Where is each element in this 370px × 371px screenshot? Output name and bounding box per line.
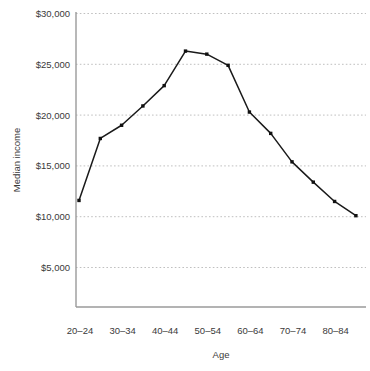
y-axis-tick-label: $30,000 xyxy=(36,8,70,19)
y-axis-tick-label: $10,000 xyxy=(36,211,70,222)
y-axis-tick-labels-group: $5,000$10,000$15,000$20,000$25,000$30,00… xyxy=(36,8,70,273)
x-axis-tick-label: 60–64 xyxy=(237,325,263,336)
y-axis-tick-label: $5,000 xyxy=(41,262,70,273)
y-axis-title: Median income xyxy=(11,128,22,192)
x-axis-tick-label: 80–84 xyxy=(322,325,348,336)
data-point-markers-group xyxy=(77,49,357,217)
x-axis-title: Age xyxy=(213,349,230,360)
median-income-by-age-line-chart: $5,000$10,000$15,000$20,000$25,000$30,00… xyxy=(0,0,370,371)
data-point-marker xyxy=(99,137,102,140)
data-point-marker xyxy=(77,199,80,202)
data-point-marker xyxy=(312,180,315,183)
x-axis-tick-label: 70–74 xyxy=(280,325,306,336)
x-axis-tick-labels-group: 20–2430–3440–4450–5460–6470–7480–84 xyxy=(67,325,349,336)
x-axis-tick-label: 50–54 xyxy=(195,325,221,336)
x-axis-tick-label: 30–34 xyxy=(109,325,135,336)
data-point-marker xyxy=(333,200,336,203)
median-income-series-line xyxy=(79,51,356,216)
data-point-marker xyxy=(120,124,123,127)
y-axis-tick-label: $25,000 xyxy=(36,59,70,70)
data-point-marker xyxy=(269,132,272,135)
x-axis-tick-label: 20–24 xyxy=(67,325,93,336)
data-point-marker xyxy=(205,52,208,55)
gridlines-group xyxy=(76,14,366,268)
data-point-marker xyxy=(226,64,229,67)
y-axis-tick-label: $20,000 xyxy=(36,110,70,121)
chart-container: $5,000$10,000$15,000$20,000$25,000$30,00… xyxy=(0,0,370,371)
y-axis-tick-label: $15,000 xyxy=(36,160,70,171)
data-point-marker xyxy=(163,84,166,87)
data-point-marker xyxy=(184,49,187,52)
data-point-marker xyxy=(354,214,357,217)
data-point-marker xyxy=(290,160,293,163)
data-point-marker xyxy=(141,104,144,107)
data-point-marker xyxy=(248,110,251,113)
x-axis-tick-label: 40–44 xyxy=(152,325,178,336)
